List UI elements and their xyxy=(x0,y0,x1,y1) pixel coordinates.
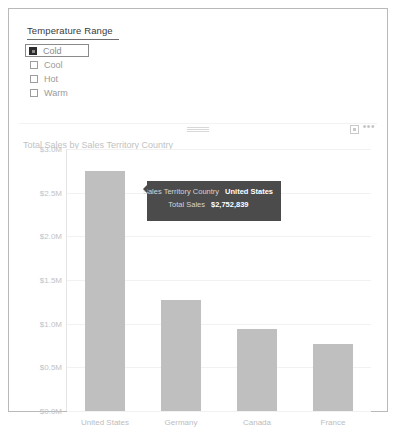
y-axis-tick-label: $0.5M xyxy=(40,363,62,372)
chart-bar[interactable] xyxy=(161,300,201,411)
total-sales-column-chart[interactable]: ••• Total Sales by Sales Territory Count… xyxy=(19,121,377,402)
slicer-item-cool[interactable]: Cool xyxy=(27,58,63,71)
checkbox-hot-icon[interactable] xyxy=(30,75,38,83)
tooltip-row: Sales Territory Country United States xyxy=(155,187,273,200)
x-axis-tick-label: Germany xyxy=(165,418,198,427)
chart-bar[interactable] xyxy=(237,329,277,411)
y-axis-tick-label: $1.5M xyxy=(40,276,62,285)
y-axis-tick-label: $3.0M xyxy=(40,145,62,154)
slicer-title-divider xyxy=(27,39,119,40)
tooltip-row: Total Sales $2,752,839 xyxy=(155,200,273,213)
y-axis-tick-label: $0.0M xyxy=(40,407,62,416)
slicer-item-hot[interactable]: Hot xyxy=(27,72,58,85)
drag-handle-icon[interactable] xyxy=(187,127,209,131)
x-axis-tick-label: France xyxy=(321,418,346,427)
chart-tooltip: Sales Territory Country United States To… xyxy=(147,181,281,221)
checkbox-warm-icon[interactable] xyxy=(30,89,38,97)
tooltip-value: $2,752,839 xyxy=(211,200,273,209)
slicer-item-cold[interactable]: Cold xyxy=(25,44,89,57)
x-axis-tick-label: United States xyxy=(81,418,129,427)
slicer-title: Temperature Range xyxy=(27,25,113,36)
slicer-item-warm[interactable]: Warm xyxy=(27,86,68,99)
visual-header-divider xyxy=(19,123,377,124)
slicer-item-label: Cool xyxy=(44,60,63,70)
temperature-range-slicer[interactable]: Temperature Range Cold Cool Hot Warm xyxy=(19,19,189,114)
focus-mode-icon[interactable] xyxy=(350,125,359,134)
gridline xyxy=(67,149,371,150)
checkbox-cool-icon[interactable] xyxy=(30,61,38,69)
tooltip-key: Sales Territory Country xyxy=(143,187,219,196)
tooltip-key: Total Sales xyxy=(168,200,205,209)
y-axis-tick-label: $2.0M xyxy=(40,232,62,241)
gridline xyxy=(67,411,371,412)
more-options-icon[interactable]: ••• xyxy=(363,122,375,132)
chart-bar[interactable] xyxy=(313,344,353,411)
tooltip-value: United States xyxy=(225,187,273,196)
slicer-item-label: Hot xyxy=(44,74,58,84)
y-axis-tick-label: $1.0M xyxy=(40,319,62,328)
chart-bar[interactable] xyxy=(85,171,125,411)
slicer-item-label: Cold xyxy=(43,46,62,56)
report-page-canvas: Temperature Range Cold Cool Hot Warm •••… xyxy=(8,8,388,412)
y-axis-tick-label: $2.5M xyxy=(40,188,62,197)
checkbox-cold-icon[interactable] xyxy=(29,47,37,55)
x-axis-tick-label: Canada xyxy=(243,418,271,427)
slicer-item-label: Warm xyxy=(44,88,68,98)
